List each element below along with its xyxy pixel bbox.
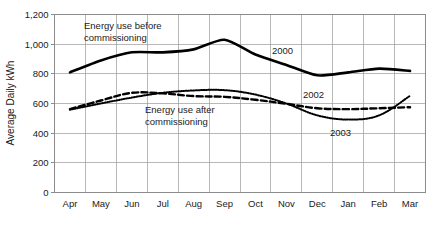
series-label-2002: 2002 — [303, 89, 324, 100]
x-axis-tick-label: Dec — [309, 198, 326, 209]
x-axis-tick-label: Sep — [216, 198, 233, 209]
x-axis-tick-label: Nov — [278, 198, 295, 209]
x-axis-tick-label: Mar — [402, 198, 418, 209]
x-axis-tick-label: Oct — [248, 198, 263, 209]
y-axis-tick-label: 800 — [33, 68, 49, 79]
y-axis-tick-label: 1,000 — [25, 39, 49, 50]
x-axis-tick-label: Feb — [371, 198, 387, 209]
y-axis-tick-label: 1,200 — [25, 9, 49, 20]
x-axis-tick-label: Apr — [63, 198, 78, 209]
series-label-2000: 2000 — [272, 45, 293, 56]
y-axis-title: Average Daily kWh — [5, 61, 16, 146]
y-axis-tick-label: 400 — [33, 128, 49, 139]
annotation-before-line-2: commissioning — [84, 32, 147, 43]
x-axis-tick-label: Jul — [157, 198, 169, 209]
y-axis-tick-label: 200 — [33, 157, 49, 168]
y-axis-tick-labels: 02004006008001,0001,200 — [25, 9, 49, 198]
y-axis-tick-label: 0 — [43, 187, 48, 198]
x-axis-tick-labels: AprMayJunJulAugSepOctNovDecJanFebMar — [63, 198, 419, 209]
y-axis-tick-label: 600 — [33, 98, 49, 109]
annotation-after-line-2: commissioning — [145, 116, 208, 127]
energy-use-line-chart: 02004006008001,0001,200 AprMayJunJulAugS… — [0, 0, 435, 228]
series-name-labels: 200020022003 — [272, 45, 351, 138]
chart-canvas: 02004006008001,0001,200 AprMayJunJulAugS… — [0, 0, 435, 228]
series-label-2003: 2003 — [330, 127, 351, 138]
annotation-after-line-1: Energy use after — [145, 104, 215, 115]
x-axis-tick-label: Aug — [185, 198, 202, 209]
x-axis-tick-label: Jan — [341, 198, 356, 209]
x-axis-tick-label: Jun — [124, 198, 139, 209]
x-axis-tick-label: May — [92, 198, 110, 209]
y-axis-tick-marks — [51, 15, 55, 193]
annotation-before-line-1: Energy use before — [84, 20, 162, 31]
